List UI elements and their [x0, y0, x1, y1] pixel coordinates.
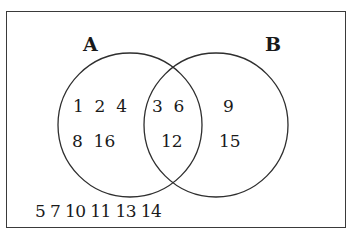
circle-b — [144, 53, 288, 197]
intersection-row1: 3 6 — [152, 96, 184, 116]
b-only-row2: 15 — [219, 131, 241, 151]
a-only-row1: 1 2 4 — [73, 96, 127, 116]
b-only-row1: 9 — [223, 96, 234, 116]
outside-elements: 5 7 10 11 13 14 — [35, 201, 161, 221]
set-b-label: B — [265, 33, 281, 55]
set-a-label: A — [83, 33, 98, 55]
circle-a — [58, 53, 202, 197]
a-only-row2: 8 16 — [72, 131, 115, 151]
intersection-row2: 12 — [161, 131, 183, 151]
